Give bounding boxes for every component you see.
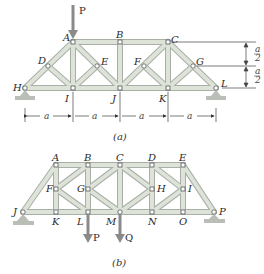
node-label-b-m: M bbox=[105, 216, 117, 227]
span-dim-3: a bbox=[139, 111, 144, 121]
node-label-f: F bbox=[133, 56, 142, 67]
load-label-p-b: P bbox=[93, 232, 100, 243]
node-label-g: G bbox=[196, 56, 204, 67]
load-label-q-b: Q bbox=[125, 232, 133, 243]
truss-figure: P A B C D E F G H I J K L a a a a bbox=[0, 0, 264, 274]
node-label-b-i: I bbox=[187, 183, 193, 194]
node-label-b: B bbox=[115, 29, 123, 40]
span-dim-2: a bbox=[92, 111, 97, 121]
svg-text:2: 2 bbox=[254, 53, 261, 63]
node-label-l: L bbox=[220, 78, 228, 89]
node-label-b-n: N bbox=[147, 216, 158, 227]
node-label-b-c: C bbox=[116, 152, 124, 163]
roller-support-icon bbox=[206, 90, 226, 100]
node-label-d: D bbox=[37, 55, 46, 66]
height-dim-2: a 2 bbox=[254, 66, 261, 85]
load-label-p-a: P bbox=[79, 5, 86, 16]
node-label-j: J bbox=[110, 93, 117, 104]
span-dim-4: a bbox=[187, 111, 192, 121]
node-label-a: A bbox=[62, 32, 70, 43]
caption-b: (b) bbox=[112, 257, 126, 268]
height-dim-1: a 2 bbox=[254, 44, 261, 63]
node-label-b-d: D bbox=[147, 152, 156, 163]
node-label-e: E bbox=[100, 56, 109, 67]
load-arrow-q-b bbox=[115, 214, 125, 243]
node-label-k: K bbox=[158, 93, 167, 104]
node-label-b-b: B bbox=[83, 152, 91, 163]
svg-text:2: 2 bbox=[254, 75, 261, 85]
node-label-b-o: O bbox=[179, 216, 187, 227]
node-label-b-h: H bbox=[156, 183, 166, 194]
node-label-b-a: A bbox=[51, 152, 59, 163]
load-arrow-p-b bbox=[83, 214, 93, 243]
node-label-b-g: G bbox=[77, 183, 85, 194]
node-label-b-l: L bbox=[76, 216, 84, 227]
node-label-c: C bbox=[171, 34, 179, 45]
node-label-b-p: P bbox=[218, 206, 226, 217]
node-label-b-f: F bbox=[45, 183, 54, 194]
node-label-b-e: E bbox=[178, 152, 187, 163]
height-dimension-lines bbox=[172, 42, 256, 88]
node-label-b-j: J bbox=[11, 206, 18, 217]
node-label-i: I bbox=[64, 93, 70, 104]
node-label-b-k: K bbox=[51, 216, 60, 227]
truss-a-members bbox=[25, 42, 216, 88]
span-dim-1: a bbox=[44, 111, 49, 121]
caption-a: (a) bbox=[113, 131, 127, 142]
node-label-h: H bbox=[12, 82, 22, 93]
